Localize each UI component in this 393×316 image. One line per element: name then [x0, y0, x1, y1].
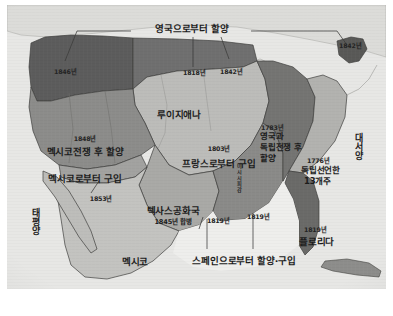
label-thirteen-states: 13개주 — [304, 177, 331, 187]
label-year-1842-top-right: 1842년 — [339, 42, 362, 49]
label-mexican-war-cession: 멕시코전쟁 후 할양 — [47, 147, 124, 158]
label-britain-war-cession-line1: 영국과 — [260, 132, 283, 142]
label-year-1819-gulf: 1819년 — [247, 213, 270, 220]
label-year-1803: 1803년 — [208, 145, 231, 152]
label-declared-independence: 독립선언한 — [301, 166, 340, 176]
label-year-1783: 1783년 — [261, 124, 284, 131]
territorial-expansion-map-figure: 영국으로부터 할양 1846년 1818년 1842년 1842년 루이지애나 … — [0, 0, 393, 316]
label-texas-annexed: 1845년 합병 — [154, 219, 191, 226]
label-ceded-purchased-from-spain: 스페인으로부터 할양·구입 — [192, 256, 295, 267]
label-mississippi-river: 미시시피강 — [235, 163, 241, 193]
label-year-1819-florida: 1819년 — [304, 226, 327, 233]
label-year-1846: 1846년 — [54, 68, 77, 75]
label-britain-war-cession-line2: 독립전쟁 후 — [260, 143, 302, 153]
label-year-1842-mid: 1842년 — [220, 68, 243, 75]
label-year-1819-west: 1819년 — [207, 217, 230, 224]
label-purchased-from-france: 프랑스로부터 구입 — [182, 159, 256, 170]
label-year-1848: 1848년 — [74, 135, 97, 142]
label-mexico: 멕시코 — [122, 257, 148, 268]
label-year-1776: 1776년 — [307, 157, 330, 164]
label-florida: 플로리다 — [299, 237, 334, 248]
map-canvas: 영국으로부터 할양 1846년 1818년 1842년 1842년 루이지애나 … — [7, 5, 386, 289]
label-texas-republic: 텍사스공화국 — [147, 206, 200, 217]
label-atlantic-ocean: 대서양 — [351, 133, 364, 160]
label-ceded-from-britain: 영국으로부터 할양 — [155, 24, 229, 35]
label-year-1818: 1818년 — [183, 69, 206, 76]
label-year-1853: 1853년 — [90, 195, 113, 202]
label-britain-war-cession-line3: 할양 — [260, 154, 276, 164]
label-purchased-from-mexico: 멕시코로부터 구입 — [48, 174, 122, 185]
label-pacific-ocean: 태평양 — [28, 208, 41, 235]
label-louisiana: 루이지애나 — [157, 110, 201, 121]
